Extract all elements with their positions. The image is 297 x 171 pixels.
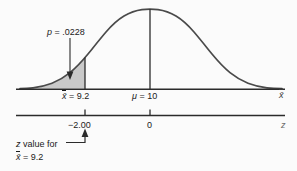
probability-symbol: p [47, 27, 52, 37]
probability-annotation-label: p = .0228 [47, 27, 85, 38]
z-axis-name-label: z [281, 120, 286, 131]
xbar-tick-label: x̄ = 9.2 [62, 91, 89, 102]
caption-line-2: x̄ = 9.2 [16, 152, 43, 163]
xbar-axis-name-label: x̄ [279, 90, 284, 101]
caption-line-1-text: value for [21, 139, 58, 149]
z-tick-label-negative-two: −2.00 [68, 120, 91, 131]
shaded-tail-region [33, 58, 85, 89]
caption-xbar-symbol: x̄ [16, 152, 21, 163]
probability-equals: = [55, 27, 60, 37]
xbar-symbol: x̄ [62, 91, 67, 102]
figure-canvas: p = .0228 x̄ = 9.2 μ = 10 x̄ −2.00 0 z z… [0, 0, 297, 171]
z-tick-label-zero: 0 [147, 120, 152, 131]
mu-tick-label: μ = 10 [132, 91, 157, 102]
probability-value: .0228 [62, 27, 85, 37]
caption-line-1: z value for [16, 139, 58, 150]
mu-tick-value: = 10 [137, 91, 157, 101]
caption-line-2-text: = 9.2 [21, 152, 44, 162]
normal-distribution-curve [20, 9, 282, 89]
xbar-tick-value: = 9.2 [67, 91, 90, 101]
xbar-axis-symbol: x̄ [279, 90, 284, 101]
